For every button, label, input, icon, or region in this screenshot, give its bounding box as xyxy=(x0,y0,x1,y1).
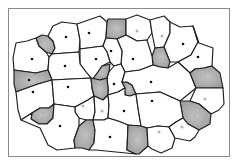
seed-dot-light xyxy=(101,110,104,113)
seed-dot-light xyxy=(136,30,139,33)
cell-group xyxy=(13,15,224,154)
seed-dot-light xyxy=(126,89,129,92)
seed-dot xyxy=(32,91,35,94)
seed-dot-light xyxy=(158,131,161,134)
seed-dot xyxy=(151,100,154,103)
seed-dot-light xyxy=(46,43,49,46)
seed-dot xyxy=(110,50,113,53)
seed-dot xyxy=(65,36,68,39)
seed-dot-light xyxy=(82,105,85,108)
seed-dot xyxy=(132,58,135,61)
seed-dot-light xyxy=(82,135,85,138)
seed-dot xyxy=(64,65,67,68)
seed-dot xyxy=(67,86,70,89)
seed-dot xyxy=(182,43,185,46)
seed-dot-light xyxy=(100,71,103,74)
seed-dot xyxy=(88,32,91,35)
seed-dot xyxy=(109,136,112,139)
seed-dot-light xyxy=(204,98,207,101)
seed-dot-light xyxy=(181,126,184,129)
seed-dot-light xyxy=(42,112,45,115)
diagram-canvas xyxy=(0,0,233,164)
voronoi-diagram xyxy=(0,0,233,164)
seed-dot xyxy=(123,110,126,113)
seed-dot xyxy=(31,58,34,61)
seed-dot xyxy=(28,79,31,82)
cell xyxy=(93,95,109,120)
seed-dot xyxy=(197,56,200,59)
seed-dot xyxy=(113,83,116,86)
seed-dot xyxy=(95,58,98,61)
seed-dot-light xyxy=(161,35,164,38)
seed-dot-light xyxy=(204,77,207,80)
seed-dot-light xyxy=(135,136,138,139)
seed-dot-light xyxy=(194,114,197,117)
seed-dot-light xyxy=(113,30,116,33)
seed-dot-light xyxy=(100,93,103,96)
seed-dot-light xyxy=(160,58,163,61)
seed-dot xyxy=(150,81,153,84)
seed-dot xyxy=(59,125,62,128)
